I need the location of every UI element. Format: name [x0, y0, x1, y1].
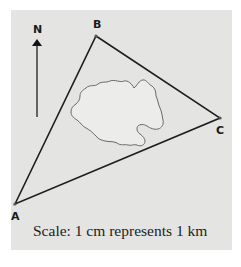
- scale-caption: Scale: 1 cm represents 1 km: [33, 222, 207, 239]
- map-diagram: B C A N Scale: 1 cm represents 1 km: [0, 0, 241, 267]
- north-label: N: [33, 23, 42, 36]
- vertex-c-point: [218, 116, 221, 119]
- vertex-a-point: [13, 202, 16, 205]
- vertex-label-c: C: [216, 124, 224, 137]
- vertex-b-point: [94, 34, 97, 37]
- north-arrow-icon: N: [32, 23, 42, 117]
- vertex-label-b: B: [93, 18, 101, 31]
- irregular-region: [71, 80, 163, 146]
- vertex-label-a: A: [11, 210, 20, 223]
